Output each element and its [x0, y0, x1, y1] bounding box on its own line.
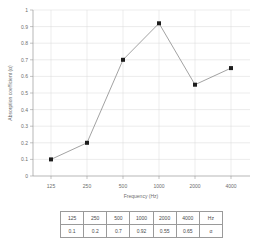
x-axis-tick-labels: 125 250 500 1000 2000 4000: [47, 183, 237, 189]
table-cell: 1000: [130, 212, 153, 225]
data-point-marker: [49, 157, 53, 161]
y-axis-title: Absorption coefficient (α): [7, 65, 13, 121]
table-cell: 500: [107, 212, 130, 225]
table-row: 0.1 0.2 0.7 0.92 0.55 0.65 α: [61, 225, 223, 238]
data-point-marker: [157, 21, 161, 25]
absorption-coefficient-chart: 1 0.9 0.8 0.7 0.6 0.5 0.4 0.3 0.2 0.1 0 …: [0, 0, 257, 205]
table-cell: 2000: [153, 212, 176, 225]
table-cell: 125: [61, 212, 84, 225]
series-line: [51, 23, 231, 159]
y-tick-label: 0.3: [21, 123, 28, 129]
x-tick-label: 1000: [153, 183, 164, 189]
x-axis-ticks: [51, 176, 231, 179]
y-tick-label: 0.7: [21, 57, 28, 63]
table-cell-unit: Hz: [199, 212, 222, 225]
y-tick-label: 0.2: [21, 140, 28, 146]
data-point-marker: [85, 141, 89, 145]
absorption-data-table: 125 250 500 1000 2000 4000 Hz 0.1 0.2 0.…: [60, 211, 223, 238]
table-cell: 250: [84, 212, 107, 225]
x-tick-label: 500: [119, 183, 128, 189]
y-tick-label: 0.8: [21, 40, 28, 46]
y-tick-label: 0: [25, 173, 28, 179]
x-axis-title: Frequency (Hz): [124, 193, 159, 199]
y-tick-label: 0.9: [21, 24, 28, 30]
data-point-marker: [229, 66, 233, 70]
y-axis-ticks: [30, 10, 33, 176]
y-tick-label: 0.4: [21, 107, 28, 113]
x-tick-label: 125: [47, 183, 56, 189]
table-cell-unit: α: [199, 225, 222, 238]
x-tick-label: 250: [83, 183, 92, 189]
data-point-marker: [121, 58, 125, 62]
y-tick-label: 0.6: [21, 73, 28, 79]
y-tick-label: 0.1: [21, 156, 28, 162]
table-cell: 0.55: [153, 225, 176, 238]
series-markers: [49, 21, 233, 161]
table-cell: 0.92: [130, 225, 153, 238]
chart-canvas: 1 0.9 0.8 0.7 0.6 0.5 0.4 0.3 0.2 0.1 0 …: [0, 0, 257, 205]
data-table-container: 125 250 500 1000 2000 4000 Hz 0.1 0.2 0.…: [60, 211, 223, 238]
y-tick-label: 1: [25, 7, 28, 13]
x-tick-label: 2000: [189, 183, 200, 189]
table-row: 125 250 500 1000 2000 4000 Hz: [61, 212, 223, 225]
horizontal-gridlines: [33, 10, 250, 159]
x-tick-label: 4000: [225, 183, 236, 189]
table-cell: 0.7: [107, 225, 130, 238]
table-cell: 0.65: [176, 225, 199, 238]
data-point-marker: [193, 83, 197, 87]
table-cell: 0.2: [84, 225, 107, 238]
table-cell: 4000: [176, 212, 199, 225]
y-axis-tick-labels: 1 0.9 0.8 0.7 0.6 0.5 0.4 0.3 0.2 0.1 0: [21, 7, 28, 179]
y-tick-label: 0.5: [21, 90, 28, 96]
table-cell: 0.1: [61, 225, 84, 238]
